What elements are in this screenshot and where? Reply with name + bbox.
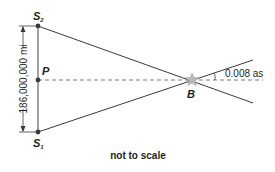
sight-line-from-s1 [38,60,253,132]
sight-line-from-s2 [38,26,253,103]
parallax-diagram: 186,000,000 mi S2 S1 P B 0.008 as not to… [0,0,275,172]
angle-arc [214,73,215,80]
arrow-up-icon [21,26,26,32]
point-s1 [36,130,41,135]
label-s2: S2 [33,10,44,23]
point-p [36,78,41,83]
star-icon [185,73,198,86]
distance-label: 186,000,000 mi [18,45,29,114]
label-b: B [187,88,195,100]
arrow-down-icon [21,126,26,132]
label-p: P [42,65,50,77]
not-to-scale-note: not to scale [110,150,166,161]
label-s1: S1 [33,137,44,150]
angle-label: 0.008 as [225,68,263,79]
point-s2 [36,24,41,29]
